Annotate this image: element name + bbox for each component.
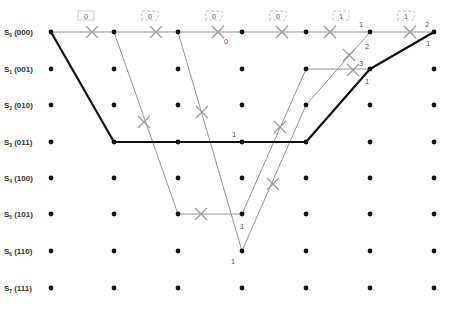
state-label: S4(100) (4, 174, 33, 184)
trellis-diagram: 000011 S0(000)S1(001)S2(010)S3(011)S4(10… (0, 0, 450, 309)
trellis-node (368, 212, 373, 217)
cross-mark-icon (274, 121, 286, 133)
trellis-node (304, 103, 309, 108)
cross-mark-icon (347, 64, 359, 76)
trellis-node (432, 176, 437, 181)
svg-text:1: 1 (339, 12, 343, 21)
trellis-node (112, 176, 117, 181)
state-label: S6(110) (4, 247, 33, 257)
trellis-node (49, 140, 54, 145)
trellis-branch (306, 32, 370, 105)
path-metric: 2 (425, 20, 429, 29)
state-label: S0(000) (4, 28, 33, 38)
svg-text:0: 0 (148, 12, 152, 21)
state-label: S3(011) (4, 138, 33, 148)
state-label: S2(010) (4, 101, 33, 111)
trellis-node (176, 176, 181, 181)
trellis-node (176, 30, 181, 35)
trellis-node (240, 212, 245, 217)
trellis-node (112, 103, 117, 108)
trellis-node (432, 212, 437, 217)
discarded-branch-marks (86, 26, 416, 220)
trellis-node (304, 67, 309, 72)
trellis-node (240, 249, 245, 254)
state-label: S7(111) (4, 284, 32, 294)
trellis-node (432, 30, 437, 35)
path-metric: 1 (240, 222, 244, 231)
trellis-node (304, 176, 309, 181)
trellis-node (304, 249, 309, 254)
trellis-node (49, 176, 54, 181)
cross-mark-icon (343, 49, 355, 61)
trellis-node (49, 212, 54, 217)
state-labels: S0(000)S1(001)S2(010)S3(011)S4(100)S5(10… (4, 28, 33, 294)
trellis-node (49, 286, 54, 291)
trellis-node (368, 286, 373, 291)
trellis-node (176, 140, 181, 145)
path-metric: 2 (365, 42, 369, 51)
received-bit-boxes: 000011 (78, 11, 414, 21)
survivor-path-line (51, 32, 434, 142)
received-bit-box: 1 (398, 11, 414, 21)
path-metric: 1 (426, 39, 430, 48)
trellis-branch (114, 32, 178, 214)
trellis-node (49, 249, 54, 254)
trellis-node (176, 249, 181, 254)
trellis-node (304, 30, 309, 35)
trellis-node (112, 67, 117, 72)
path-metric: 1 (232, 130, 236, 139)
trellis-node (176, 67, 181, 72)
path-metric: 1 (359, 20, 363, 29)
trellis-node (368, 249, 373, 254)
received-bit-box: 0 (142, 11, 158, 21)
trellis-node (49, 30, 54, 35)
trellis-node (432, 67, 437, 72)
trellis-node (176, 286, 181, 291)
state-label: S1(001) (4, 65, 33, 75)
received-bit-box: 0 (78, 11, 94, 21)
svg-text:0: 0 (84, 12, 88, 21)
svg-text:0: 0 (212, 12, 216, 21)
received-bit-box: 0 (270, 11, 286, 21)
trellis-node (112, 30, 117, 35)
trellis-node (368, 176, 373, 181)
trellis-nodes (49, 30, 437, 291)
svg-text:1: 1 (404, 12, 408, 21)
trellis-node (112, 286, 117, 291)
trellis-node (304, 286, 309, 291)
received-bit-box: 0 (206, 11, 222, 21)
received-bit-box: 1 (333, 11, 349, 21)
trellis-node (176, 212, 181, 217)
trellis-node (112, 140, 117, 145)
trellis-branch (242, 105, 306, 251)
path-metric: 1 (231, 257, 235, 266)
trellis-node (240, 140, 245, 145)
survivor-path (51, 32, 434, 142)
trellis-node (432, 140, 437, 145)
cross-mark-icon (196, 106, 208, 118)
svg-text:0: 0 (276, 12, 280, 21)
trellis-node (432, 249, 437, 254)
trellis-node (368, 103, 373, 108)
path-metric: 0 (224, 37, 228, 46)
trellis-node (240, 176, 245, 181)
trellis-node (49, 103, 54, 108)
trellis-node (368, 140, 373, 145)
path-metric: 3 (359, 59, 363, 68)
trellis-node (432, 286, 437, 291)
trellis-node (304, 140, 309, 145)
trellis-node (368, 30, 373, 35)
trellis-node (368, 67, 373, 72)
trellis-node (304, 212, 309, 217)
trellis-node (240, 30, 245, 35)
trellis-node (240, 67, 245, 72)
trellis-node (432, 103, 437, 108)
trellis-node (176, 103, 181, 108)
trellis-node (112, 212, 117, 217)
trellis-node (240, 103, 245, 108)
state-label: S5(101) (4, 210, 33, 220)
trellis-node (112, 249, 117, 254)
trellis-node (49, 67, 54, 72)
trellis-node (240, 286, 245, 291)
path-metric: 1 (365, 77, 369, 86)
